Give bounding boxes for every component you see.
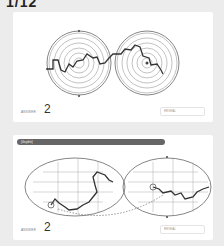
answer-value: 2 <box>44 220 51 234</box>
circular-maze-image <box>13 12 213 112</box>
answer-row-2: ANSWER 2 <box>21 220 51 234</box>
puzzle-card-1: ANSWER 2 REVEAL <box>13 12 213 122</box>
answer-row-1: ANSWER 2 <box>21 102 51 116</box>
reveal-button[interactable]: REVEAL <box>160 107 205 116</box>
page-title: 1/12 <box>6 0 37 10</box>
answer-value: 2 <box>44 102 51 116</box>
answer-label: ANSWER <box>21 228 36 232</box>
reveal-button[interactable]: REVEAL <box>160 225 205 234</box>
instruction-banner: [illegible] <box>17 139 165 145</box>
puzzle-card-2: [illegible] ANSWER 2 REVEAL <box>13 135 213 240</box>
answer-label: ANSWER <box>21 110 36 114</box>
